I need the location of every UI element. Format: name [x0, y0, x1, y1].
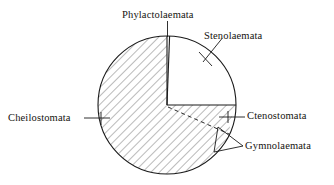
pie-chart-svg — [0, 0, 334, 185]
slice-label-stenolaemata: Stenolaemata — [204, 30, 262, 42]
leader-stenolaemata-cross — [199, 52, 212, 66]
pie-diagram-figure: Phylactolaemata Stenolaemata Cheilostoma… — [0, 0, 334, 185]
slice-label-phylactolaemata: Phylactolaemata — [122, 9, 194, 21]
slice-label-ctenostomata: Ctenostomata — [247, 110, 307, 122]
slice-label-cheilostomata: Cheilostomata — [8, 112, 71, 124]
leader-stenolaemata — [203, 39, 222, 63]
group-label-gymnolaemata: Gymnolaemata — [245, 140, 311, 152]
